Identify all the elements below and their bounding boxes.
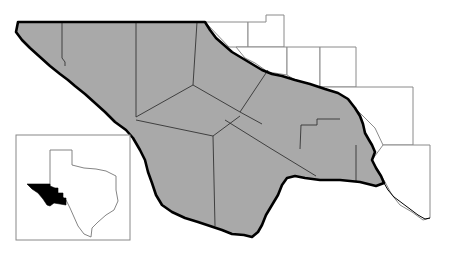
region-map (0, 0, 449, 253)
locator-inset (16, 135, 130, 240)
neighbor-county (320, 47, 356, 87)
neighbor-county (248, 15, 284, 47)
